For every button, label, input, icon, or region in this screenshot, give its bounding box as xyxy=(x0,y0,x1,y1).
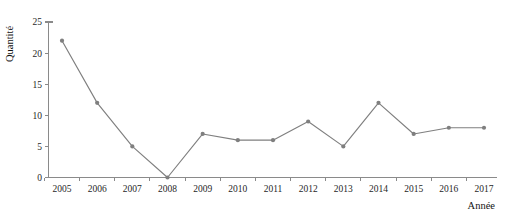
x-tick-label: 2013 xyxy=(334,184,353,194)
y-tick-label: 15 xyxy=(33,80,43,90)
data-series xyxy=(60,39,486,180)
x-axis: 2005200620072008200920102011201220132014… xyxy=(44,178,497,195)
data-point-marker xyxy=(306,119,310,123)
x-tick-label: 2017 xyxy=(475,184,494,194)
data-point-marker xyxy=(412,132,416,136)
x-axis-title: Année xyxy=(468,200,496,211)
data-point-marker xyxy=(341,144,345,148)
data-point-marker xyxy=(60,39,64,43)
data-point-marker xyxy=(165,175,169,179)
data-point-marker xyxy=(130,144,134,148)
data-point-marker xyxy=(236,138,240,142)
x-tick-label: 2015 xyxy=(404,184,423,194)
data-point-marker xyxy=(95,101,99,105)
x-tick-label: 2012 xyxy=(299,184,318,194)
data-point-marker xyxy=(376,101,380,105)
x-tick-label: 2008 xyxy=(158,184,177,194)
data-point-marker xyxy=(271,138,275,142)
line-chart: 0510152025 20052006200720082009201020112… xyxy=(0,0,516,221)
x-tick-label: 2011 xyxy=(264,184,283,194)
y-tick-label: 0 xyxy=(37,173,42,183)
y-tick-label: 5 xyxy=(37,142,42,152)
x-tick-label: 2016 xyxy=(439,184,458,194)
chart-canvas: 0510152025 20052006200720082009201020112… xyxy=(0,0,516,221)
y-tick-label: 10 xyxy=(33,111,43,121)
y-axis-title: Quantité xyxy=(4,26,15,62)
x-tick-label: 2005 xyxy=(53,184,72,194)
x-tick-label: 2009 xyxy=(193,184,212,194)
x-tick-label: 2010 xyxy=(228,184,247,194)
x-tick-label: 2014 xyxy=(369,184,388,194)
y-tick-label: 25 xyxy=(33,17,43,27)
data-point-marker xyxy=(482,126,486,130)
y-axis: 0510152025 xyxy=(33,17,53,183)
data-point-marker xyxy=(201,132,205,136)
data-point-marker xyxy=(447,126,451,130)
series-line-quantite xyxy=(62,41,484,178)
x-tick-label: 2007 xyxy=(123,184,142,194)
y-tick-label: 20 xyxy=(33,49,43,59)
x-tick-label: 2006 xyxy=(88,184,107,194)
